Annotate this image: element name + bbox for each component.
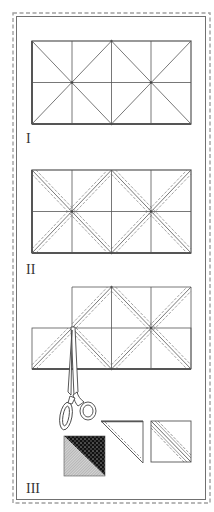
- pieced-square-fabric: [64, 436, 105, 476]
- step-1-grid: [32, 40, 191, 125]
- step-1-label: I: [26, 132, 31, 146]
- step-3-label: III: [26, 482, 40, 496]
- step-2-label: II: [26, 263, 35, 277]
- step-2-grid: [32, 170, 191, 254]
- cut-triangle: [101, 421, 143, 463]
- diagram-canvas: [0, 0, 214, 512]
- step-3-partial-grid: [32, 286, 191, 370]
- pieced-square-outline: [151, 421, 191, 462]
